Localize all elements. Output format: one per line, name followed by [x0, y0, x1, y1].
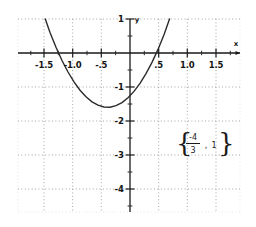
y-tick-label: 1	[118, 14, 124, 24]
x-axis-label: x	[234, 40, 239, 48]
close-brace: }	[218, 128, 235, 158]
y-tick-label: -2	[115, 116, 125, 126]
y-tick-label: -1	[115, 82, 125, 92]
x-tick-label: 1.0	[180, 60, 195, 70]
fraction-numerator: -4	[189, 133, 197, 142]
fraction-denominator: 3	[190, 146, 195, 155]
graph-figure: -1.5 -1.0 -.5 .5 1.0 1.5 1 -1 -2 -3 -4 x…	[0, 0, 256, 227]
x-tick-label: 1.5	[209, 60, 224, 70]
parabola-plot: -1.5 -1.0 -.5 .5 1.0 1.5 1 -1 -2 -3 -4 x…	[0, 0, 256, 227]
x-tick-label: -1.5	[35, 60, 53, 70]
x-tick-label: .5	[154, 60, 163, 70]
y-axis-label: y	[135, 16, 140, 24]
x-tick-label: -.5	[95, 60, 107, 70]
x-tick-label: -1.0	[64, 60, 82, 70]
plot-background	[0, 0, 256, 227]
y-tick-label: -4	[115, 184, 125, 194]
set-second-element: 1	[211, 141, 216, 150]
set-separator: ,	[205, 141, 208, 150]
y-tick-label: -3	[115, 150, 125, 160]
